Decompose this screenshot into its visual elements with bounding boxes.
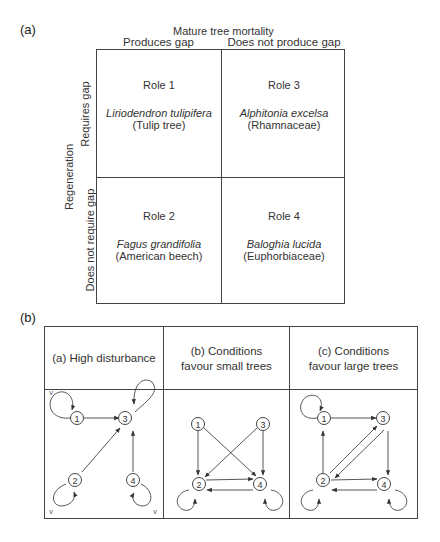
graph-favour-small-trees (177, 428, 282, 510)
svg-text:1: 1 (74, 414, 79, 424)
svg-text:1: 1 (321, 414, 326, 424)
graph-favour-large-trees (301, 395, 407, 510)
svg-text:2: 2 (320, 476, 325, 486)
svg-text:1: 1 (195, 420, 200, 430)
svg-text:4: 4 (381, 480, 386, 490)
svg-text:4: 4 (257, 480, 262, 490)
svg-text:3: 3 (260, 420, 265, 430)
transition-graphs: 13 24 13 24 13 24 v v v (0, 0, 440, 542)
svg-text:3: 3 (380, 414, 385, 424)
svg-text:v: v (49, 388, 53, 397)
graph-high-disturbance (50, 380, 154, 506)
svg-text:2: 2 (196, 480, 201, 490)
svg-text:v: v (153, 507, 157, 516)
svg-text:2: 2 (72, 476, 77, 486)
truncated-caption (20, 532, 320, 542)
svg-text:4: 4 (130, 476, 135, 486)
svg-text:v: v (49, 507, 53, 516)
svg-text:3: 3 (122, 414, 127, 424)
